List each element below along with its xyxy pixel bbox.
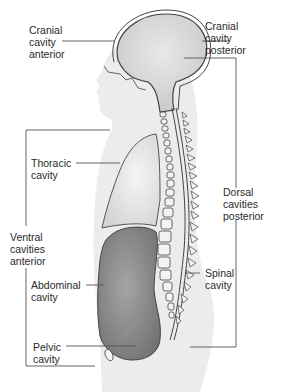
label-cranial-cavity-anterior: Cranial cavity anterior [29,24,65,60]
abdominal-cavity [98,227,161,360]
label-spinal-cavity: Spinal cavity [205,267,234,291]
label-thoracic-cavity: Thoracic cavity [31,157,71,181]
label-abdominal-cavity: Abdominal cavity [31,279,81,303]
label-dorsal-cavities-posterior: Dorsal cavities posterior [223,186,264,222]
label-pelvic-cavity: Pelvic cavity [33,341,61,365]
label-ventral-cavities-anterior: Ventral cavities anterior [10,231,46,267]
label-cranial-cavity-posterior: Cranial cavity posterior [205,20,246,56]
